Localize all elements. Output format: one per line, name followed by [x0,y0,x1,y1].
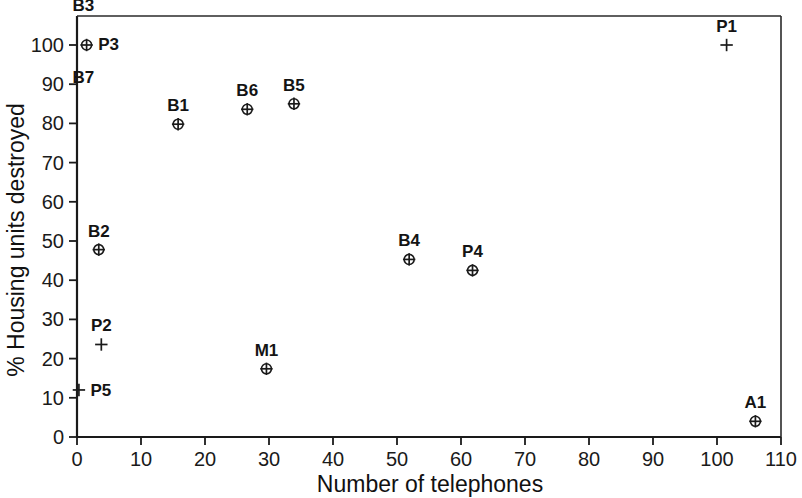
x-tick-label: 110 [765,448,797,470]
data-points-layer: B3P3B7B1B6B5P1B2B4P4P2M1P5A1 [73,0,767,428]
data-point: B6 [236,81,258,115]
data-point-label: B6 [236,81,258,100]
data-point: P3 [80,35,119,54]
data-point: B7 [73,68,95,87]
data-point: A1 [745,393,767,427]
data-point: M1 [255,341,279,375]
data-point: P5 [73,381,112,400]
x-tick-label: 60 [450,448,472,470]
data-point: B1 [167,96,189,130]
data-point: B3 [73,0,95,15]
data-point: B5 [283,76,305,110]
y-tick-label: 60 [42,191,64,213]
data-point: B2 [88,222,110,256]
y-tick-label: 100 [31,34,64,56]
y-tick-label: 40 [42,269,64,291]
data-point-label: B4 [398,231,420,250]
plot-frame [77,16,781,437]
scatter-plot-figure: 0102030405060708090100110 01020304050607… [0,0,802,498]
y-tick-label: 20 [42,348,64,370]
data-point-label: P2 [91,316,112,335]
x-axis-tick-labels: 0102030405060708090100110 [71,448,797,470]
data-point-label: M1 [255,341,279,360]
y-tick-label: 50 [42,230,64,252]
data-point-label: B2 [88,222,110,241]
y-tick-label: 0 [53,426,64,448]
data-point: B4 [398,231,420,265]
y-tick-label: 70 [42,152,64,174]
x-tick-label: 100 [700,448,733,470]
x-tick-label: 80 [578,448,600,470]
data-point-label: B7 [73,68,95,87]
x-tick-label: 50 [386,448,408,470]
x-tick-label: 10 [130,448,152,470]
x-tick-label: 0 [71,448,82,470]
y-axis-title: % Housing units destroyed [3,103,29,377]
data-point-label: B3 [73,0,95,15]
y-tick-label: 80 [42,112,64,134]
x-tick-label: 20 [194,448,216,470]
x-axis-title: Number of telephones [317,471,543,497]
data-point-label: A1 [745,393,767,412]
data-point-label: P1 [716,17,737,36]
plot-canvas: 0102030405060708090100110 01020304050607… [0,0,802,498]
y-tick-label: 10 [42,387,64,409]
x-tick-label: 70 [514,448,536,470]
y-tick-label: 90 [42,73,64,95]
data-point: P4 [462,242,483,276]
y-axis-tick-labels: 0102030405060708090100 [31,34,64,448]
data-point-label: B5 [283,76,305,95]
data-point-label: P3 [98,35,119,54]
x-tick-label: 30 [258,448,280,470]
data-point: P2 [91,316,112,350]
data-point: P1 [716,17,737,51]
x-tick-label: 90 [642,448,664,470]
data-point-label: P5 [91,381,112,400]
data-point-label: B1 [167,96,189,115]
y-tick-label: 30 [42,308,64,330]
x-tick-label: 40 [322,448,344,470]
data-point-label: P4 [462,242,483,261]
